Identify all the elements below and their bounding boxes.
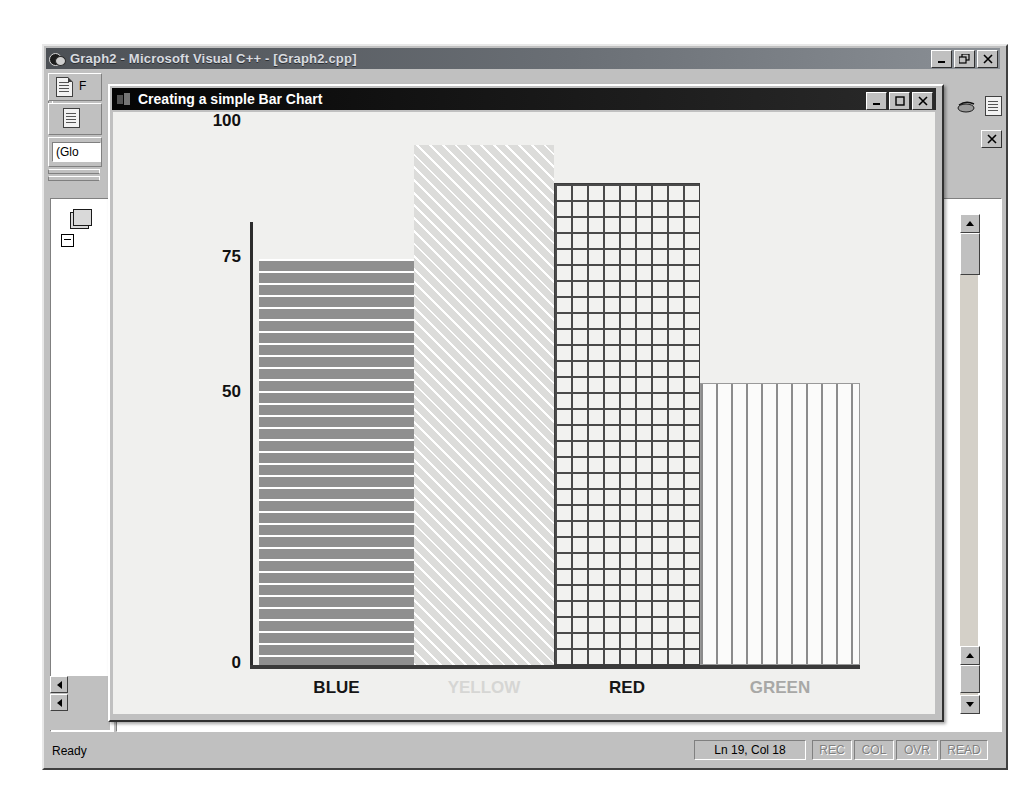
- dialog-close-button[interactable]: [912, 92, 933, 110]
- dialog-window-controls: [866, 92, 933, 110]
- x-label-red: RED: [554, 678, 700, 698]
- menu-file-label[interactable]: F: [79, 79, 86, 93]
- bar-blue: [259, 259, 414, 666]
- workspace-pane: [50, 198, 114, 732]
- scroll-up-button-2[interactable]: [960, 646, 980, 665]
- main-title-bar[interactable]: Graph2 - Microsoft Visual C++ - [Graph2.…: [46, 48, 1000, 69]
- minimize-button[interactable]: [931, 50, 952, 68]
- dialog-title: Creating a simple Bar Chart: [138, 91, 322, 107]
- tree-collapse-icon[interactable]: [61, 234, 74, 247]
- y-tick-label-75: 75: [181, 247, 241, 267]
- dialog-maximize-button[interactable]: [889, 92, 910, 110]
- folder-icon[interactable]: [73, 209, 92, 226]
- output-scroll-left-button[interactable]: [50, 676, 68, 693]
- scrollbar-thumb-2[interactable]: [960, 665, 980, 693]
- visualcpp-icon: [48, 51, 66, 66]
- workspace-tree[interactable]: [53, 201, 109, 727]
- mdi-close-button[interactable]: [981, 130, 1002, 148]
- new-document-icon[interactable]: [52, 76, 76, 98]
- y-tick-label-0: 0: [181, 653, 241, 673]
- toolbar-divider-2: [48, 176, 100, 181]
- bookmark-icon[interactable]: [956, 95, 978, 117]
- editor-vertical-scrollbar[interactable]: [960, 214, 978, 714]
- bar-red: [554, 183, 700, 665]
- bar-chart-dialog: Creating a simple Bar Chart Car Color Se…: [108, 84, 944, 722]
- y-axis-line: [250, 222, 253, 667]
- status-message: Ready: [52, 744, 87, 758]
- scrollbar-thumb[interactable]: [960, 233, 980, 275]
- x-label-blue: BLUE: [259, 678, 414, 698]
- toolbar-group-edit[interactable]: [48, 103, 102, 135]
- status-indicator-read: READ: [940, 740, 988, 760]
- main-window-controls: [931, 50, 998, 68]
- status-bar: Ready Ln 19, Col 18 REC COL OVR READ: [46, 736, 1000, 762]
- scroll-up-button[interactable]: [960, 214, 980, 233]
- status-indicator-col: COL: [854, 740, 894, 760]
- plot-area: 05075100 BLUEYELLOWREDGREEN: [113, 112, 935, 714]
- y-tick-label-100: 100: [181, 112, 241, 131]
- toolbar-group-scope: (Glo: [48, 137, 102, 167]
- dialog-title-bar[interactable]: Creating a simple Bar Chart: [112, 88, 936, 110]
- restore-button[interactable]: [954, 50, 975, 68]
- scope-combobox[interactable]: (Glo: [52, 142, 101, 162]
- dialog-minimize-button[interactable]: [866, 92, 887, 110]
- secondary-vertical-scrollbar[interactable]: [960, 646, 978, 714]
- chart-canvas: Car Color Selector 05075100 BLUEYELLOWRE…: [113, 112, 935, 714]
- toolbar-group-file[interactable]: F: [48, 73, 102, 101]
- main-window-title: Graph2 - Microsoft Visual C++ - [Graph2.…: [70, 51, 357, 66]
- x-label-yellow: YELLOW: [414, 678, 554, 698]
- toolbar-divider: [48, 169, 100, 174]
- x-label-green: GREEN: [700, 678, 860, 698]
- status-cursor-position: Ln 19, Col 18: [694, 740, 806, 760]
- status-indicator-rec: REC: [812, 740, 852, 760]
- status-indicator-ovr: OVR: [896, 740, 938, 760]
- bar-chart-icon: [115, 92, 133, 107]
- bar-green: [700, 383, 860, 665]
- y-tick-label-50: 50: [181, 382, 241, 402]
- document-list-icon[interactable]: [984, 95, 1002, 117]
- properties-document-icon[interactable]: [59, 107, 83, 129]
- close-button[interactable]: [977, 50, 998, 68]
- bar-yellow: [414, 145, 554, 665]
- output-scroll-left-button-2[interactable]: [50, 694, 68, 711]
- output-pane: [50, 676, 110, 730]
- scroll-down-button-2[interactable]: [960, 695, 980, 714]
- screen: Graph2 - Microsoft Visual C++ - [Graph2.…: [0, 0, 1033, 801]
- x-axis-line: [250, 665, 860, 669]
